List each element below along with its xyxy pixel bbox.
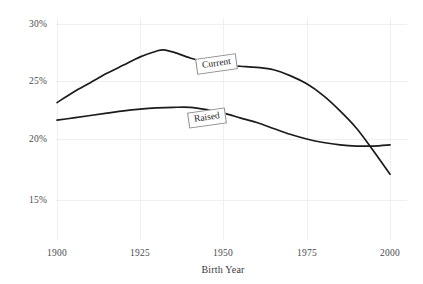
line-chart-canvas <box>0 0 423 284</box>
x-tick-label-2000: 2000 <box>380 248 400 258</box>
y-tick-label-20: 20% <box>10 134 47 144</box>
x-tick-label-1925: 1925 <box>130 248 150 258</box>
x-tick-label-1900: 1900 <box>47 248 67 258</box>
chart-page: 30% 25% 20% 15% 1900 1925 1950 1975 2000… <box>0 0 423 284</box>
y-tick-label-15: 15% <box>10 195 47 205</box>
x-tick-label-1975: 1975 <box>297 248 317 258</box>
gridlines <box>56 18 407 240</box>
y-tick-label-30: 30% <box>10 19 47 29</box>
y-tick-label-25: 25% <box>10 76 47 86</box>
x-axis-title: Birth Year <box>201 264 244 275</box>
x-tick-label-1950: 1950 <box>213 248 233 258</box>
